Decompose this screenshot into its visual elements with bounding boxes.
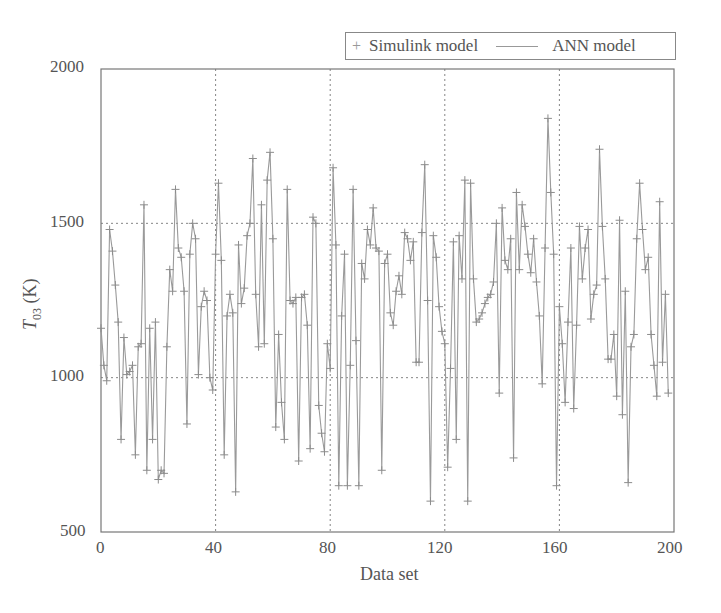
- y-label-unit: (K): [20, 278, 40, 308]
- line-swatch-icon: [496, 46, 538, 47]
- x-tick-0: 0: [96, 538, 105, 558]
- legend-ann-label: ANN model: [552, 36, 636, 56]
- y-label-symbol: T: [20, 320, 40, 330]
- x-tick-160: 160: [542, 538, 568, 558]
- y-label-subscript: 03: [30, 308, 44, 320]
- chart-canvas: [0, 0, 721, 613]
- x-tick-80: 80: [319, 538, 336, 558]
- simulink-markers: [97, 114, 672, 505]
- y-axis-label: T03 (K): [20, 278, 45, 330]
- x-tick-200: 200: [657, 538, 683, 558]
- legend-simulink-label: Simulink model: [369, 36, 478, 56]
- y-tick-500: 500: [60, 521, 86, 541]
- y-tick-2000: 2000: [50, 57, 84, 77]
- y-tick-1500: 1500: [50, 212, 84, 232]
- x-axis-label: Data set: [360, 564, 418, 585]
- plot-frame: [101, 69, 674, 532]
- plus-marker-icon: +: [352, 37, 361, 55]
- x-tick-120: 120: [427, 538, 453, 558]
- y-tick-1000: 1000: [50, 366, 84, 386]
- x-tick-40: 40: [205, 538, 222, 558]
- ann-model-line: [101, 118, 668, 501]
- legend: + Simulink model ANN model: [345, 32, 676, 60]
- grid-lines: [101, 69, 674, 532]
